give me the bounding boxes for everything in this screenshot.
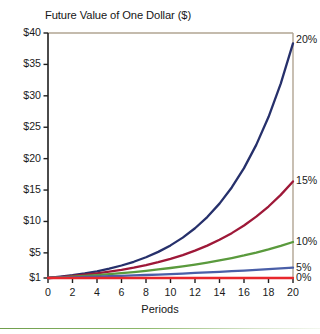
series-label-20pct: 20% (296, 33, 317, 45)
plot-area (0, 0, 320, 334)
x-axis-title: Periods (0, 303, 320, 315)
series-label-0pct: 0% (296, 271, 311, 283)
series-label-15pct: 15% (296, 174, 317, 186)
series-line-20pct (48, 43, 293, 278)
series-line-15pct (48, 181, 293, 278)
plot-frame (48, 33, 293, 278)
chart-figure: Future Value of One Dollar ($) $1$5$10$1… (0, 0, 320, 334)
footer-rule (0, 328, 320, 329)
series-label-10pct: 10% (296, 235, 317, 247)
series-lines (48, 43, 293, 278)
